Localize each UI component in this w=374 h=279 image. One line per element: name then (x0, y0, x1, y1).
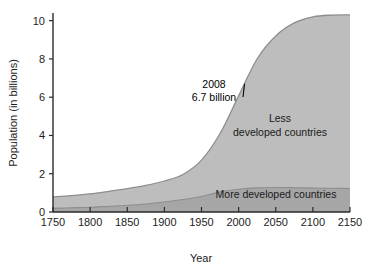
y-tick-label: 2 (39, 168, 45, 180)
annotation-year: 2008 (202, 78, 226, 90)
x-axis-title: Year (190, 252, 213, 264)
y-axis-tick-labels: 0246810 (33, 15, 45, 218)
x-tick-label: 1900 (152, 216, 176, 228)
chart-canvas: 0246810 17501800185019001950200020502100… (0, 0, 374, 279)
x-tick-label: 2050 (264, 216, 288, 228)
annotation-value: 6.7 billion (192, 91, 237, 103)
less-developed-label-line2: developed countries (233, 126, 327, 138)
x-tick-label: 1800 (78, 216, 102, 228)
x-tick-label: 2150 (338, 216, 362, 228)
x-tick-label: 1750 (41, 216, 65, 228)
x-axis-tick-labels: 175018001850190019502000205021002150 (41, 216, 362, 228)
x-tick-label: 2000 (226, 216, 250, 228)
y-tick-label: 10 (33, 15, 45, 27)
more-developed-label: More developed countries (216, 188, 337, 200)
population-area-chart: 0246810 17501800185019001950200020502100… (0, 0, 374, 279)
y-tick-label: 6 (39, 91, 45, 103)
x-tick-label: 1950 (189, 216, 213, 228)
x-tick-label: 1850 (115, 216, 139, 228)
y-tick-label: 4 (39, 129, 45, 141)
x-tick-label: 2100 (301, 216, 325, 228)
less-developed-label-line1: Less (269, 112, 291, 124)
y-axis-title: Population (in billions) (7, 59, 19, 167)
y-tick-label: 8 (39, 53, 45, 65)
